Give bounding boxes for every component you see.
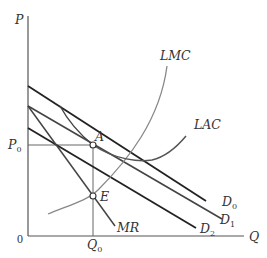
y-axis-label: P bbox=[14, 12, 24, 27]
point-e-marker bbox=[90, 193, 96, 199]
economics-diagram: P Q 0 P0 Q0 A E LMC LAC MR D0 D1 D2 bbox=[0, 0, 267, 258]
d0-label: D0 bbox=[221, 194, 237, 211]
lac-label: LAC bbox=[193, 117, 221, 132]
demand-curve-d1 bbox=[28, 106, 222, 219]
d1-label: D1 bbox=[219, 212, 235, 229]
price-level-label: P0 bbox=[7, 137, 22, 154]
point-a-label: A bbox=[94, 129, 104, 144]
x-axis-label: Q bbox=[249, 229, 259, 244]
d2-label: D2 bbox=[199, 221, 215, 238]
origin-label: 0 bbox=[17, 232, 23, 246]
point-e-label: E bbox=[99, 189, 109, 204]
mr-label: MR bbox=[116, 220, 139, 235]
quantity-level-label: Q0 bbox=[87, 237, 102, 254]
lmc-label: LMC bbox=[159, 48, 191, 63]
